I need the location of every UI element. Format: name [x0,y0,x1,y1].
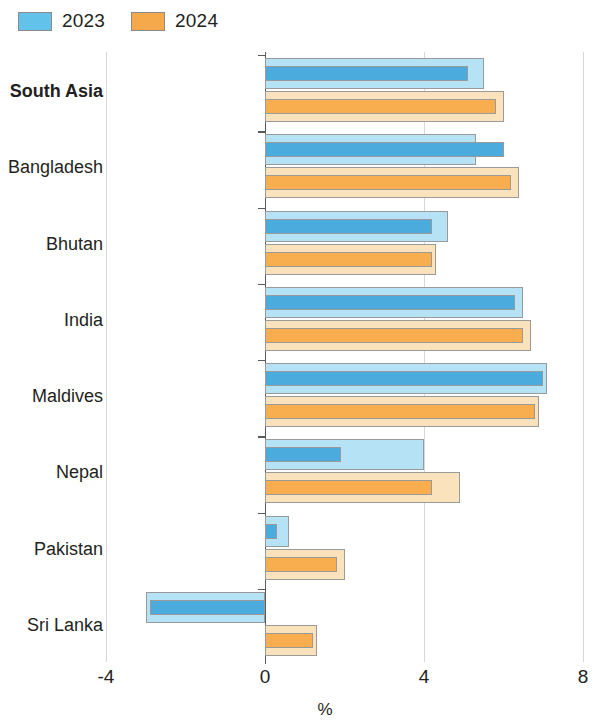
bar-2023-inner-4 [265,371,543,386]
x-axis-unit-label: % [305,700,345,720]
category-tick-0 [258,55,265,56]
category-tick-2 [258,208,265,209]
bar-2024-inner-2 [265,252,432,267]
category-label-bangladesh: Bangladesh [3,158,103,176]
bar-2024-inner-7 [265,633,313,648]
legend-label-2023: 2023 [62,10,105,32]
legend-item-2024: 2024 [131,10,218,32]
category-label-nepal: Nepal [3,463,103,481]
category-tick-7 [258,589,265,590]
category-tick-5 [258,436,265,437]
legend-swatch-2024 [131,12,165,31]
category-label-bhutan: Bhutan [3,235,103,253]
bar-2023-inner-3 [265,295,515,310]
bar-2023-inner-0 [265,66,468,81]
bar-2024-inner-4 [265,404,535,419]
category-tick-3 [258,284,265,285]
plot-area [106,52,583,662]
legend-item-2023: 2023 [18,10,105,32]
category-label-india: India [3,311,103,329]
category-tick-1 [258,131,265,132]
bar-2024-inner-3 [265,328,523,343]
gridline--4 [106,52,107,662]
category-tick-4 [258,360,265,361]
legend-label-2024: 2024 [175,10,218,32]
bar-2023-inner-1 [265,142,504,157]
bar-2023-inner-6 [265,524,277,539]
bar-2023-inner-2 [265,219,432,234]
bar-2024-inner-5 [265,480,432,495]
x-tick-label-0: 0 [245,666,285,688]
bar-2024-inner-6 [265,557,337,572]
category-label-south-asia: South Asia [3,82,103,100]
category-tick-6 [258,513,265,514]
bar-2023-inner-7 [150,600,265,615]
category-label-pakistan: Pakistan [3,540,103,558]
bar-2024-inner-1 [265,175,511,190]
bar-2024-inner-0 [265,99,496,114]
x-tick-label--4: -4 [86,666,126,688]
x-tick-label-4: 4 [404,666,444,688]
category-label-sri-lanka: Sri Lanka [3,616,103,634]
gridline-8 [583,52,584,662]
legend-swatch-2023 [18,12,52,31]
bar-2023-inner-5 [265,447,341,462]
chart-legend: 2023 2024 [18,8,218,34]
category-label-maldives: Maldives [3,387,103,405]
x-tick-label-8: 8 [563,666,593,688]
